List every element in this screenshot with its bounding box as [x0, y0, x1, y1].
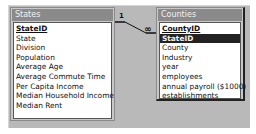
field-list-counties: CountyID StateID County Industry year em… [159, 22, 241, 99]
table-title-states[interactable]: States [12, 9, 113, 21]
field-population[interactable]: Population [14, 53, 111, 63]
field-year[interactable]: year [160, 62, 240, 72]
field-county[interactable]: County [160, 43, 240, 53]
table-states[interactable]: States StateID State Division Population… [10, 7, 115, 121]
field-stateid-selected[interactable]: StateID [160, 34, 240, 44]
field-average-commute-time[interactable]: Average Commute Time [14, 72, 111, 82]
field-median-household-income[interactable]: Median Household Income [14, 91, 111, 101]
field-industry[interactable]: Industry [160, 53, 240, 63]
field-establishments[interactable]: establishments [160, 91, 240, 101]
field-list-states: StateID State Division Population Averag… [13, 22, 112, 119]
field-median-rent[interactable]: Median Rent [14, 101, 111, 111]
field-stateid[interactable]: StateID [14, 24, 111, 34]
field-average-age[interactable]: Average Age [14, 62, 111, 72]
field-employees[interactable]: employees [160, 72, 240, 82]
table-title-counties[interactable]: Counties [158, 9, 242, 21]
table-counties[interactable]: Counties CountyID StateID County Industr… [156, 7, 245, 101]
relationship-one-label: 1 [119, 12, 124, 20]
relationship-many-label: ∞ [144, 24, 152, 34]
field-division[interactable]: Division [14, 43, 111, 53]
field-annual-payroll[interactable]: annual payroll ($1000) [160, 82, 240, 92]
field-per-capita-income[interactable]: Per Capita Income [14, 82, 111, 92]
field-countyid[interactable]: CountyID [160, 24, 240, 34]
field-state[interactable]: State [14, 34, 111, 44]
